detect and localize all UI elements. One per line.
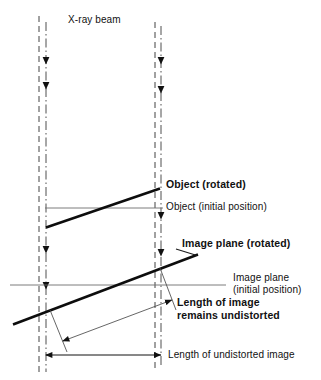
image-plane-initial-label-line2: (initial position) xyxy=(233,284,302,296)
right-beam-group xyxy=(155,22,164,368)
xray-beam-label: X-ray beam xyxy=(68,14,121,26)
image-plane-initial-label-line1: Image plane xyxy=(233,272,289,284)
oblique-dimension-line xyxy=(63,300,172,341)
length-of-undistorted-image-label: Length of undistorted image xyxy=(168,349,295,361)
left-beam-group xyxy=(39,16,49,372)
length-undistorted-label-line2: remains undistorted xyxy=(177,309,280,321)
image-plane-rotated-label: Image plane (rotated) xyxy=(182,237,290,249)
diagram-canvas xyxy=(0,0,321,380)
oblique-measure-group xyxy=(50,268,176,352)
oblique-extension-left xyxy=(50,310,67,352)
length-undistorted-label-line1: Length of image xyxy=(177,296,260,308)
image-plane-rotated-line xyxy=(13,255,198,325)
image-plane-rotated-leader xyxy=(176,249,197,256)
xray-geometry-diagram: X-ray beam Object (rotated) Object (init… xyxy=(0,0,321,380)
object-rotated-label: Object (rotated) xyxy=(166,178,246,190)
object-initial-position-label: Object (initial position) xyxy=(166,201,267,213)
